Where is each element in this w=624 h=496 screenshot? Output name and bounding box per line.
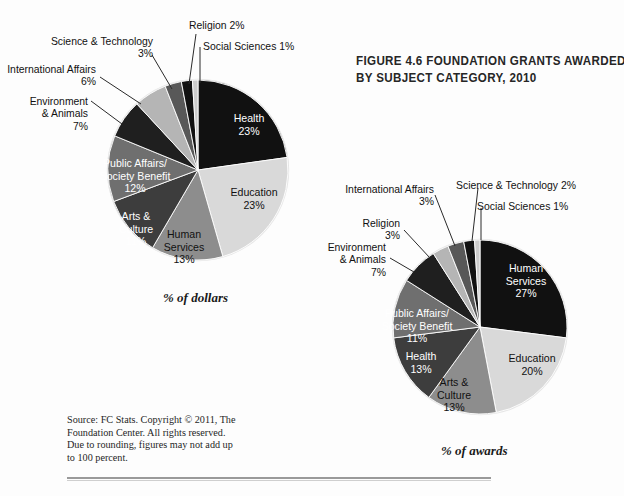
label-international-affairs-awards: International Affairs 3% bbox=[330, 184, 434, 209]
source-line-4: to 100 percent. bbox=[67, 452, 302, 465]
label-social-sciences-dollars: Social Sciences 1% bbox=[203, 41, 294, 53]
slice-label-health-awards: Health 13% bbox=[392, 350, 450, 375]
label-science-technology-awards: Science & Technology 2% bbox=[456, 180, 576, 192]
source-line-2: Foundation Center. All rights reserved. bbox=[67, 427, 302, 440]
label-environment-animals-dollars: Environment & Animals 7% bbox=[0, 96, 88, 133]
title-line-2: BY SUBJECT CATEGORY, 2010 bbox=[356, 69, 571, 86]
figure-page: FIGURE 4.6 FOUNDATION GRANTS AWARDED BY … bbox=[0, 0, 624, 496]
caption-dollars: % of dollars bbox=[163, 290, 228, 306]
label-religion-dollars: Religion 2% bbox=[189, 20, 244, 32]
source-note: Source: FC Stats. Copyright © 2011, The … bbox=[67, 414, 302, 464]
label-religion-awards: Religion 3% bbox=[330, 218, 400, 243]
source-line-3: Due to rounding, figures may not add up bbox=[67, 439, 302, 452]
caption-awards: % of awards bbox=[441, 443, 507, 459]
slice-label-health-dollars: Health 23% bbox=[213, 112, 285, 137]
slice-label-public-affairs-awards: Public Affairs/ Society Benefit 11% bbox=[371, 307, 463, 345]
slice-label-public-affairs-dollars: Public Affairs/ Society Benefit 12% bbox=[89, 157, 181, 195]
label-science-technology-dollars: Science & Technology 3% bbox=[0, 36, 153, 61]
bottom-divider bbox=[67, 477, 491, 479]
source-line-1: Source: FC Stats. Copyright © 2011, The bbox=[67, 414, 302, 427]
slice-label-arts-culture-dollars: Arts & Culture 11% bbox=[107, 210, 165, 248]
bottom-divider-shadow bbox=[67, 480, 491, 481]
slice-label-human-services-awards: Human Services 27% bbox=[493, 262, 559, 300]
label-environment-animals-awards: Environment & Animals 7% bbox=[312, 242, 386, 279]
slice-label-education-awards: Education 20% bbox=[494, 352, 570, 377]
label-international-affairs-dollars: International Affairs 6% bbox=[0, 64, 96, 89]
slice-label-education-dollars: Education 23% bbox=[215, 186, 293, 211]
title-line-1: FIGURE 4.6 FOUNDATION GRANTS AWARDED bbox=[356, 52, 571, 69]
label-social-sciences-awards: Social Sciences 1% bbox=[477, 201, 568, 213]
slice-label-arts-culture-awards: Arts & Culture 13% bbox=[426, 376, 482, 414]
page-title: FIGURE 4.6 FOUNDATION GRANTS AWARDED BY … bbox=[356, 52, 571, 86]
